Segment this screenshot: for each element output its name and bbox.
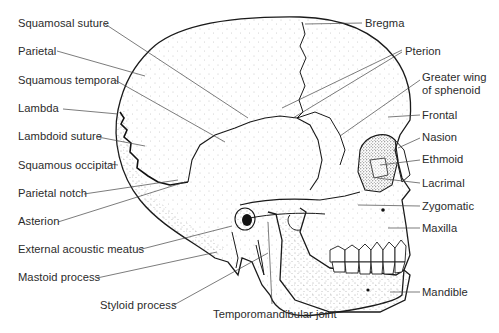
- label-greater-wing-line2: of sphenoid: [422, 84, 480, 97]
- label-pterion: Pterion: [405, 45, 441, 58]
- label-mastoid-process: Mastoid process: [18, 271, 100, 284]
- label-parietal: Parietal: [18, 45, 56, 58]
- label-greater-wing-line1: Greater wing: [422, 71, 487, 84]
- label-styloid-process: Styloid process: [100, 299, 177, 312]
- label-ethmoid: Ethmoid: [422, 153, 463, 166]
- label-squamous-occipital: Squamous occipital: [18, 159, 116, 172]
- label-squamous-temporal: Squamous temporal: [18, 74, 119, 87]
- label-frontal: Frontal: [422, 109, 457, 122]
- label-parietal-notch: Parietal notch: [18, 187, 87, 200]
- label-lambdoid-suture: Lambdoid suture: [18, 130, 102, 143]
- skull-diagram: Squamosal suture Parietal Squamous tempo…: [0, 0, 499, 333]
- label-maxilla: Maxilla: [422, 222, 457, 235]
- label-zygomatic: Zygomatic: [422, 200, 474, 213]
- label-lambda: Lambda: [18, 102, 59, 115]
- label-mandible: Mandible: [422, 286, 468, 299]
- label-bregma: Bregma: [365, 17, 404, 30]
- label-temporomandibular-joint: Temporomandibular joint: [213, 308, 337, 321]
- label-lacrimal: Lacrimal: [422, 177, 465, 190]
- label-squamosal-suture: Squamosal suture: [18, 17, 109, 30]
- label-external-acoustic-meatus: External acoustic meatus: [18, 243, 144, 256]
- label-nasion: Nasion: [422, 131, 457, 144]
- external-acoustic-meatus-opening: [235, 208, 255, 230]
- label-asterion: Asterion: [18, 215, 59, 228]
